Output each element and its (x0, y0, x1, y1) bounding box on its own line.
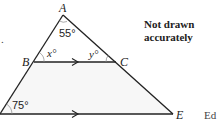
geometry-diagram: A B C E 55° x° y° 75° Not drawn accurate… (0, 0, 217, 122)
stray-text-dot: . (1, 33, 4, 45)
vertex-label-b: B (22, 55, 30, 69)
angle-arc-b (40, 53, 44, 62)
angle-label-y: y° (88, 48, 99, 60)
angle-label-a: 55° (59, 27, 76, 39)
angle-arc-a (60, 21, 68, 22)
angle-label-bottom-left: 75° (12, 99, 29, 111)
angle-label-x: x° (46, 47, 57, 59)
stray-text-ed: Ed (204, 109, 217, 121)
note-line-2: accurately (144, 31, 193, 43)
vertex-label-a: A (58, 1, 67, 15)
vertex-label-e: E (175, 108, 184, 122)
vertex-label-c: C (120, 55, 129, 69)
note-line-1: Not drawn (144, 18, 194, 30)
